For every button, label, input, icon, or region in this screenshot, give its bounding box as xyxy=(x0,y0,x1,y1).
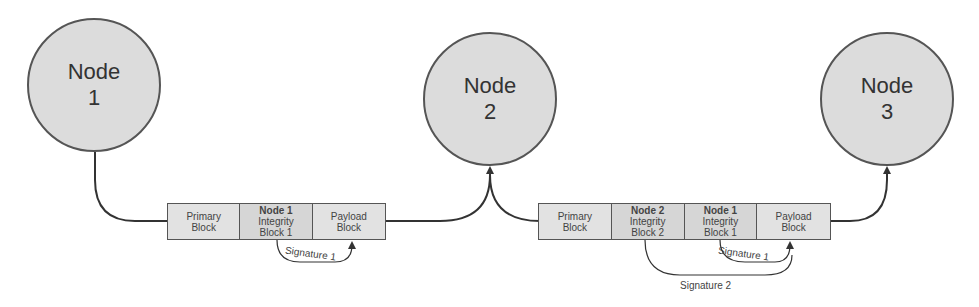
cell-line: Payload xyxy=(331,211,367,222)
cell-title: Node 1 xyxy=(259,205,292,216)
node-label: Node xyxy=(68,59,121,85)
cell-line: Block 1 xyxy=(260,227,293,238)
payload-block: Payload Block xyxy=(313,204,385,239)
cell-title: Node 2 xyxy=(631,205,664,216)
cell-line: Block xyxy=(191,222,215,233)
bundle-2: Primary Block Node 2 Integrity Block 2 N… xyxy=(538,203,831,240)
cell-title: Node 1 xyxy=(704,205,737,216)
signature-2-label: Signature 2 xyxy=(680,280,731,291)
cell-line: Block xyxy=(781,222,805,233)
cell-line: Primary xyxy=(558,211,592,222)
edge-node2-bundle2 xyxy=(490,175,540,221)
cell-line: Block 2 xyxy=(631,227,664,238)
primary-block: Primary Block xyxy=(168,204,240,239)
node-number: 2 xyxy=(484,99,496,125)
node-label: Node xyxy=(861,73,914,99)
primary-block: Primary Block xyxy=(539,204,612,239)
node-1: Node 1 xyxy=(27,18,161,152)
cell-line: Block 1 xyxy=(704,227,737,238)
cell-line: Integrity xyxy=(630,216,666,227)
bundle-1: Primary Block Node 1 Integrity Block 1 P… xyxy=(167,203,386,240)
node-label: Node xyxy=(464,73,517,99)
cell-line: Primary xyxy=(186,211,220,222)
integrity-block-1: Node 1 Integrity Block 1 xyxy=(685,204,758,239)
node-number: 1 xyxy=(88,85,100,111)
cell-line: Integrity xyxy=(703,216,739,227)
cell-line: Block xyxy=(337,222,361,233)
payload-block: Payload Block xyxy=(757,204,830,239)
cell-line: Integrity xyxy=(258,216,294,227)
node-2: Node 2 xyxy=(423,32,557,166)
node-3: Node 3 xyxy=(820,32,954,166)
cell-line: Payload xyxy=(776,211,812,222)
integrity-block-2: Node 2 Integrity Block 2 xyxy=(612,204,685,239)
integrity-block-1: Node 1 Integrity Block 1 xyxy=(240,204,312,239)
edge-node1-bundle1 xyxy=(95,152,167,221)
edge-bundle1-node2 xyxy=(385,170,490,221)
cell-line: Block xyxy=(563,222,587,233)
edge-bundle2-node3 xyxy=(831,170,887,221)
node-number: 3 xyxy=(881,99,893,125)
